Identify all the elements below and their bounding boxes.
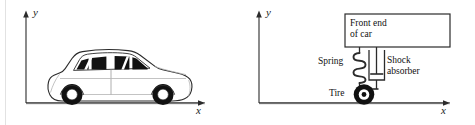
shock-absorber-label: Shock absorber: [387, 55, 420, 76]
spring-assembly: [354, 47, 366, 89]
y-axis-arrowhead: [23, 11, 29, 18]
tire: [354, 84, 375, 105]
physics-figure-suspension-model: y x: [0, 0, 475, 125]
right-panel-x-axis-label: x: [441, 105, 446, 116]
panel-car-on-axes: y x: [0, 0, 235, 125]
right-panel-y-axis-label: y: [266, 7, 271, 18]
tire-label: Tire: [329, 88, 345, 99]
wheel-rear: [61, 84, 82, 105]
left-panel-x-axis-label: x: [196, 105, 201, 116]
wheel-front: [152, 84, 173, 105]
panel-suspension-schematic: y x Front end of car Spring Shock absorb…: [235, 0, 475, 125]
front-end-of-car-label: Front end of car: [350, 18, 387, 39]
window-rear-door: [92, 56, 107, 69]
spring-coil: [354, 53, 366, 83]
shock-absorber-assembly: [369, 47, 385, 89]
left-panel-y-axis-label: y: [33, 7, 38, 18]
spring-label: Spring: [318, 56, 343, 67]
y-axis-arrowhead: [256, 11, 262, 18]
car-illustration: [48, 50, 192, 105]
